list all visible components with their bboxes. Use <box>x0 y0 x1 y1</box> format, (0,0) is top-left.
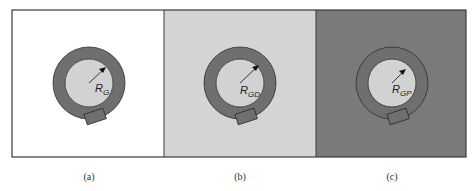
panel-b: RGD <box>164 10 316 157</box>
caption-a: (a) <box>83 171 94 183</box>
caption-b: (b) <box>234 171 246 183</box>
panel-c: RGP <box>316 10 466 157</box>
panel-a: RG <box>12 10 164 157</box>
caption-c: (c) <box>386 171 397 183</box>
figure: RG RGD RGP (a) (b) (c) <box>0 0 474 191</box>
